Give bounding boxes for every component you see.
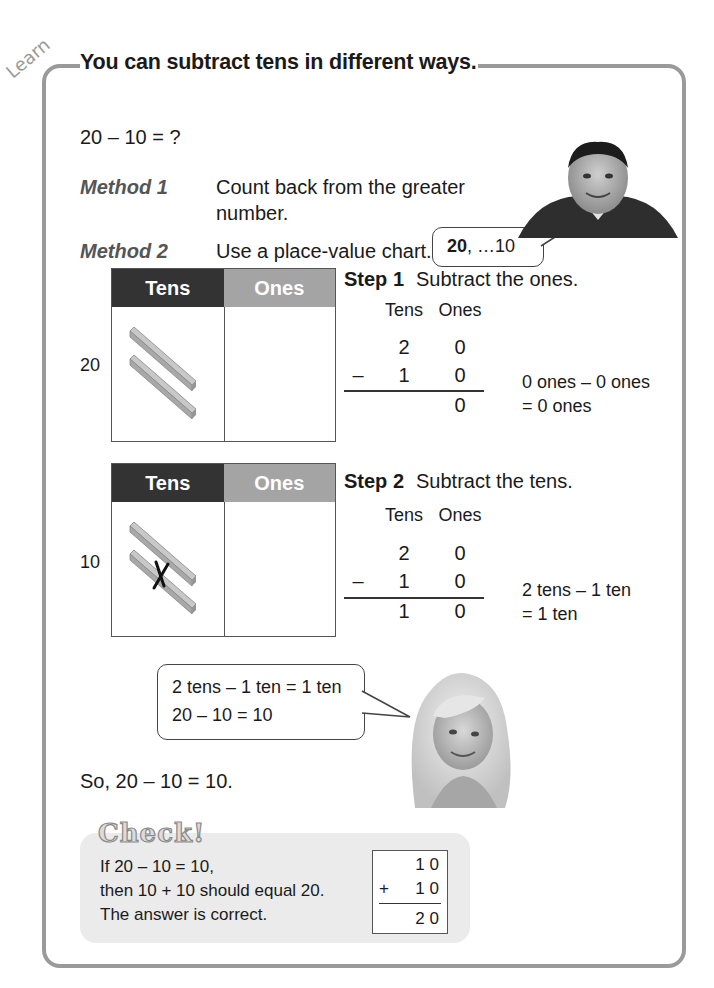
step-1-result-ones: 0 bbox=[448, 394, 472, 417]
method-2-label: Method 2 bbox=[80, 240, 168, 263]
page-title: You can subtract tens in different ways. bbox=[80, 50, 477, 75]
tens-header: Tens bbox=[112, 464, 224, 502]
step-2-note-line2: = 1 ten bbox=[522, 604, 578, 625]
sum-operator: + bbox=[379, 879, 389, 899]
step-1-note-line1: 0 ones – 0 ones bbox=[522, 372, 650, 393]
check-line3: The answer is correct. bbox=[100, 903, 325, 927]
step-1-operator: – bbox=[350, 364, 366, 387]
tens-cell bbox=[112, 307, 225, 441]
step-1-top-tens: 2 bbox=[392, 336, 416, 359]
tens-rods-icon bbox=[112, 502, 224, 636]
girl-speech-bubble: 2 tens – 1 ten = 1 ten 20 – 10 = 10 bbox=[157, 664, 365, 740]
ones-cell bbox=[225, 502, 335, 636]
step-2-bottom-ones: 0 bbox=[448, 570, 472, 593]
step-1-rule bbox=[344, 390, 484, 392]
step-2-top-ones: 0 bbox=[448, 542, 472, 565]
problem: 20 – 10 = ? bbox=[80, 126, 181, 149]
step-1-top-ones: 0 bbox=[448, 336, 472, 359]
chart-2-number: 10 bbox=[80, 552, 100, 573]
step-2-heading: Step 2Subtract the tens. bbox=[344, 470, 573, 493]
place-value-chart-2: Tens Ones bbox=[111, 463, 336, 637]
step-2-ones-header: Ones bbox=[436, 505, 484, 526]
sum-top: 1 0 bbox=[415, 855, 439, 875]
step-2-result-tens: 1 bbox=[392, 600, 416, 623]
tens-header: Tens bbox=[112, 269, 224, 307]
step-1-note-line2: = 0 ones bbox=[522, 396, 592, 417]
check-line1: If 20 – 10 = 10, bbox=[100, 855, 325, 879]
step-2-rule bbox=[344, 597, 484, 599]
step-2-tens-header: Tens bbox=[382, 505, 426, 526]
check-text: If 20 – 10 = 10, then 10 + 10 should equ… bbox=[100, 855, 325, 927]
chart-1-number: 20 bbox=[80, 355, 100, 376]
method-1-text-line1: Count back from the greater bbox=[216, 176, 465, 199]
step-1-bottom-tens: 1 bbox=[392, 364, 416, 387]
tens-cell bbox=[112, 502, 225, 636]
step-1-bottom-ones: 0 bbox=[448, 364, 472, 387]
conclusion: So, 20 – 10 = 10. bbox=[80, 770, 233, 793]
sum-result: 2 0 bbox=[415, 909, 439, 929]
check-line2: then 10 + 10 should equal 20. bbox=[100, 879, 325, 903]
step-1-tens-header: Tens bbox=[382, 300, 426, 321]
tens-rods-icon bbox=[112, 307, 224, 441]
step-1-heading: Step 1Subtract the ones. bbox=[344, 268, 578, 291]
method-1-label: Method 1 bbox=[80, 176, 168, 199]
step-1-ones-header: Ones bbox=[436, 300, 484, 321]
ones-header: Ones bbox=[224, 269, 336, 307]
sum-rule bbox=[379, 903, 441, 904]
girl-photo bbox=[405, 668, 517, 808]
girl-bubble-line1: 2 tens – 1 ten = 1 ten bbox=[172, 673, 350, 701]
girl-bubble-line2: 20 – 10 = 10 bbox=[172, 701, 350, 729]
check-addition: 1 0 + 1 0 2 0 bbox=[372, 850, 448, 934]
step-2-result-ones: 0 bbox=[448, 600, 472, 623]
boy-photo bbox=[518, 138, 678, 238]
ones-cell bbox=[225, 307, 335, 441]
step-2-operator: – bbox=[350, 570, 366, 593]
method-1-text-line2: number. bbox=[216, 202, 288, 225]
sum-bottom: 1 0 bbox=[415, 879, 439, 899]
place-value-chart-1: Tens Ones bbox=[111, 268, 336, 442]
check-title: Check! bbox=[98, 818, 205, 848]
step-2-note-line1: 2 tens – 1 ten bbox=[522, 580, 631, 601]
step-2-top-tens: 2 bbox=[392, 542, 416, 565]
method-2-text: Use a place-value chart. bbox=[216, 240, 432, 263]
step-2-bottom-tens: 1 bbox=[392, 570, 416, 593]
ones-header: Ones bbox=[224, 464, 336, 502]
